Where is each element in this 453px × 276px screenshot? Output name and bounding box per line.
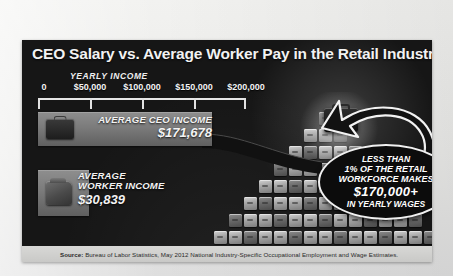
bar-ceo-labels: AVERAGE CEO INCOME $171,678 bbox=[88, 115, 212, 140]
source-body: Bureau of Labor Statistics, May 2012 Nat… bbox=[83, 251, 398, 258]
bar-ceo-value: $171,678 bbox=[88, 126, 212, 140]
connector-ribbon bbox=[202, 128, 322, 182]
pyramid-briefcase-icon bbox=[289, 197, 303, 210]
axis-tick-0 bbox=[38, 98, 40, 109]
callout-line-3: WORKFORCE MAKES bbox=[339, 174, 433, 184]
bar-ceo-label: AVERAGE CEO INCOME bbox=[88, 115, 212, 125]
pyramid-briefcase-icon bbox=[319, 231, 333, 244]
pyramid-briefcase-icon bbox=[244, 197, 258, 210]
bar-worker-label-line2: WORKER INCOME bbox=[78, 181, 198, 191]
pyramid-briefcase-icon bbox=[319, 214, 333, 227]
pyramid-briefcase-icon bbox=[334, 231, 348, 244]
pyramid-briefcase-icon bbox=[304, 197, 318, 210]
pyramid-briefcase-icon bbox=[424, 231, 433, 244]
pyramid-briefcase-icon bbox=[244, 231, 258, 244]
page-title: CEO Salary vs. Average Worker Pay in the… bbox=[32, 45, 424, 63]
source-strip: Source: Bureau of Labor Statistics, May … bbox=[22, 246, 432, 262]
source-citation: Source: Bureau of Labor Statistics, May … bbox=[60, 251, 398, 258]
pyramid-briefcase-icon bbox=[259, 231, 273, 244]
pyramid-briefcase-icon bbox=[244, 214, 258, 227]
axis-tick-1 bbox=[90, 98, 92, 109]
infographic-screenshot: CEO Salary vs. Average Worker Pay in the… bbox=[0, 0, 453, 276]
pyramid-briefcase-icon bbox=[214, 231, 228, 244]
axis-tick-label-3: $150,000 bbox=[175, 82, 213, 92]
pyramid-briefcase-icon bbox=[229, 214, 243, 227]
pyramid-briefcase-icon bbox=[409, 231, 423, 244]
pyramid-briefcase-icon bbox=[274, 231, 288, 244]
pyramid-briefcase-icon bbox=[364, 231, 378, 244]
callout-line-4: $170,000+ bbox=[354, 185, 419, 200]
pyramid-briefcase-icon bbox=[259, 197, 273, 210]
pyramid-briefcase-icon bbox=[289, 231, 303, 244]
pyramid-briefcase-icon bbox=[334, 214, 348, 227]
axis-tick-label-0: 0 bbox=[41, 82, 46, 92]
pyramid-briefcase-icon bbox=[394, 231, 408, 244]
callout-line-5: IN YEARLY WAGES bbox=[347, 200, 425, 210]
callout-line-2: 1% OF THE RETAIL bbox=[345, 164, 428, 174]
infographic-panel: CEO Salary vs. Average Worker Pay in the… bbox=[22, 40, 432, 262]
bar-worker-labels: AVERAGE WORKER INCOME $30,839 bbox=[78, 171, 198, 207]
pyramid-briefcase-icon bbox=[289, 214, 303, 227]
briefcase-handle bbox=[54, 116, 67, 121]
pyramid-briefcase-icon bbox=[274, 214, 288, 227]
axis-tick-label-1: $50,000 bbox=[74, 82, 107, 92]
pyramid-briefcase-icon bbox=[304, 214, 318, 227]
axis-tick-3 bbox=[194, 98, 196, 109]
money-bag-icon bbox=[46, 181, 72, 205]
pyramid-briefcase-icon bbox=[259, 214, 273, 227]
pyramid-briefcase-icon bbox=[304, 231, 318, 244]
axis-tick-label-2: $100,000 bbox=[123, 82, 161, 92]
bar-worker-value: $30,839 bbox=[78, 193, 198, 207]
briefcase-icon bbox=[46, 119, 74, 139]
pyramid-briefcase-icon bbox=[349, 231, 363, 244]
pyramid-briefcase-icon bbox=[379, 231, 393, 244]
axis-title: YEARLY INCOME bbox=[70, 71, 148, 81]
callout-line-1: LESS THAN bbox=[362, 155, 410, 165]
pyramid-briefcase-icon bbox=[274, 197, 288, 210]
source-label: Source: bbox=[60, 251, 83, 258]
pyramid-briefcase-icon bbox=[229, 231, 243, 244]
axis-tick-2 bbox=[142, 98, 144, 109]
